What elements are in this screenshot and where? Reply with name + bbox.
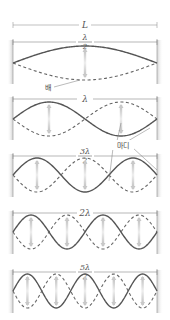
antinode-arrow: [120, 105, 122, 133]
panel-harmonic-1: λ2: [7, 30, 163, 84]
left-wall: [7, 97, 13, 140]
antinode-arrow: [102, 218, 104, 246]
right-wall: [157, 154, 163, 197]
antinode-arrow: [132, 161, 134, 189]
antinode-arrow: [26, 277, 28, 305]
left-wall: [7, 211, 13, 254]
antinode-arrow: [141, 277, 143, 305]
panel-harmonic-2: λ: [7, 94, 163, 140]
antinode-arrow: [138, 218, 140, 246]
antinode-arrow: [113, 277, 115, 305]
panel-harmonic-4: 2λ: [7, 208, 163, 254]
length-label-numerator: 5λ: [80, 263, 90, 272]
right-wall: [157, 40, 163, 84]
length-label-numerator: 3λ: [80, 147, 90, 156]
left-wall: [7, 154, 13, 197]
right-wall: [157, 211, 163, 254]
length-label: λ: [81, 94, 88, 104]
antinode-arrow: [55, 277, 57, 305]
antinode-annotation: 배: [45, 80, 80, 92]
antinode-arrow: [84, 161, 86, 189]
standing-wave-diagram: L λ2λ3λ22λ5λ2배마디: [0, 0, 170, 320]
length-label: 2λ: [78, 208, 90, 218]
antinode-arrow: [66, 218, 68, 246]
node-label: 마디: [117, 141, 129, 150]
panel-harmonic-5: 5λ2: [7, 260, 163, 313]
antinode-arrow: [36, 161, 38, 189]
right-wall: [157, 270, 163, 313]
length-dimension: L: [13, 19, 157, 30]
antinode-arrow: [84, 277, 86, 305]
left-wall: [7, 40, 13, 84]
antinode-arrow: [30, 218, 32, 246]
right-wall: [157, 97, 163, 140]
panel-harmonic-3: 3λ2: [7, 144, 163, 197]
solid-wave: [13, 102, 157, 136]
antinode-label: 배: [45, 83, 51, 92]
length-label: L: [81, 20, 88, 30]
left-wall: [7, 270, 13, 313]
solid-wave: [13, 215, 157, 249]
antinode-arrow: [84, 49, 86, 77]
length-label-numerator: λ: [81, 33, 87, 42]
antinode-arrow: [48, 105, 50, 133]
